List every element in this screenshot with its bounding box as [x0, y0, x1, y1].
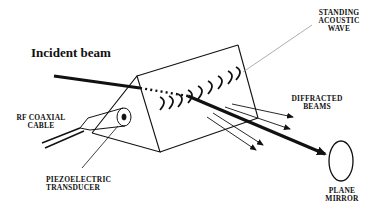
label-line: TRANSDUCER	[46, 184, 111, 192]
plane-mirror-label: PLANE MIRROR	[314, 187, 370, 203]
piezo-leader-line	[82, 126, 118, 168]
standing-wave-leader-line	[243, 25, 312, 72]
plane-mirror	[329, 141, 353, 181]
piezoelectric-transducer	[117, 108, 131, 126]
standing-acoustic-wave-label: STANDING ACOUSTIC WAVE	[308, 9, 370, 33]
label-line: CABLE	[10, 122, 72, 130]
piezoelectric-transducer-label: PIEZOELECTRIC TRANSDUCER	[46, 176, 111, 192]
incident-beam	[54, 76, 140, 88]
label-line: MIRROR	[314, 195, 370, 203]
acousto-optic-diagram: Incident beam STANDING ACOUSTIC WAVE DIF…	[0, 0, 378, 217]
rf-coaxial-cable-label: RF COAXIAL CABLE	[10, 114, 72, 130]
prism-crystal	[92, 45, 258, 152]
diffracted-beams-label: DIFFRACTED BEAMS	[282, 95, 352, 111]
label-line: WAVE	[308, 25, 370, 33]
label-line: BEAMS	[282, 103, 352, 111]
standing-acoustic-wave-fronts	[160, 67, 240, 110]
incident-beam-label: Incident beam	[31, 46, 111, 60]
